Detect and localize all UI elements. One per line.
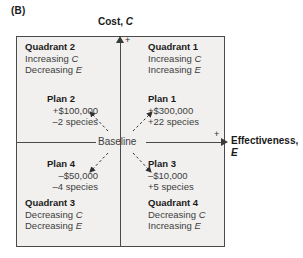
quadrant-2-title: Quadrant 2: [25, 41, 82, 53]
panel-label: (B): [11, 5, 25, 16]
quadrant-4-eff-var: E: [194, 220, 200, 231]
quadrant-1-cost-text: Increasing: [148, 53, 194, 64]
quadrant-3-eff-var: E: [76, 220, 82, 231]
quadrant-3-eff-text: Decreasing: [25, 220, 76, 231]
quadrant-2-block: Quadrant 2 Increasing C Decreasing E: [25, 41, 82, 76]
quadrant-4-eff-line: Increasing E: [148, 220, 206, 232]
plan-1-block: Plan 1 +$300,000 +22 species: [148, 93, 199, 128]
effectiveness-axis-line-right: [146, 142, 222, 143]
quadrant-1-cost-var: C: [194, 53, 201, 64]
quadrant-2-cost-line: Increasing C: [25, 53, 82, 65]
quadrant-4-cost-line: Decreasing C: [148, 209, 206, 221]
x-axis-variable: E: [231, 147, 298, 159]
quadrant-3-cost-var: C: [76, 209, 83, 220]
plan-2-species: –2 species: [28, 116, 98, 128]
quadrant-1-cost-line: Increasing C: [148, 53, 201, 65]
plan-4-species: –4 species: [28, 181, 98, 193]
plan-4-cost: –$50,000: [28, 170, 98, 182]
y-axis-variable: C: [126, 16, 133, 27]
y-axis-title-text: Cost,: [98, 16, 126, 27]
quadrant-4-cost-var: C: [199, 209, 206, 220]
x-axis-title: Effectiveness,E: [231, 135, 298, 159]
plan-3-cost: –$10,000: [148, 170, 194, 182]
quadrant-2-eff-var: E: [76, 64, 82, 75]
quadrant-3-block: Quadrant 3 Decreasing C Decreasing E: [25, 197, 83, 232]
quadrant-4-eff-text: Increasing: [148, 220, 194, 231]
quadrant-2-cost-var: C: [71, 53, 78, 64]
quadrant-2-eff-text: Decreasing: [25, 64, 76, 75]
quadrant-4-title: Quadrant 4: [148, 197, 206, 209]
baseline-label: Baseline: [98, 136, 136, 147]
plan-1-cost: +$300,000: [148, 105, 199, 117]
effectiveness-axis-arrowhead-icon: [221, 138, 228, 146]
plan-1-species: +22 species: [148, 116, 199, 128]
plan-3-block: Plan 3 –$10,000 +5 species: [148, 158, 194, 193]
plan-3-title: Plan 3: [148, 158, 194, 170]
cost-axis-plus-sign: +: [125, 36, 130, 45]
x-axis-title-text: Effectiveness,: [231, 135, 298, 146]
effectiveness-axis-line-left: [17, 142, 96, 143]
quadrant-3-cost-line: Decreasing C: [25, 209, 83, 221]
quadrant-3-title: Quadrant 3: [25, 197, 83, 209]
y-axis-title: Cost, C: [98, 16, 133, 27]
quadrant-1-block: Quadrant 1 Increasing C Increasing E: [148, 41, 201, 76]
plan-2-title: Plan 2: [28, 93, 98, 105]
plan-1-title: Plan 1: [148, 93, 199, 105]
quadrant-4-block: Quadrant 4 Decreasing C Increasing E: [148, 197, 206, 232]
quadrant-2-cost-text: Increasing: [25, 53, 71, 64]
cost-axis-arrowhead-icon: [116, 36, 124, 43]
quadrant-3-eff-line: Decreasing E: [25, 220, 83, 232]
plan-4-block: Plan 4 –$50,000 –4 species: [28, 158, 98, 193]
plan-3-species: +5 species: [148, 181, 194, 193]
plan-4-title: Plan 4: [28, 158, 98, 170]
quadrant-1-title: Quadrant 1: [148, 41, 201, 53]
effectiveness-axis-plus-sign: +: [214, 130, 219, 139]
quadrant-1-eff-text: Increasing: [148, 64, 194, 75]
plan-2-block: Plan 2 +$100,000 –2 species: [28, 93, 98, 128]
quadrant-2-eff-line: Decreasing E: [25, 64, 82, 76]
quadrant-1-eff-var: E: [194, 64, 200, 75]
quadrant-4-cost-text: Decreasing: [148, 209, 199, 220]
figure-panel-b: (B) Cost, C + + Effectiveness,E Baseline…: [0, 0, 303, 258]
quadrant-3-cost-text: Decreasing: [25, 209, 76, 220]
quadrant-1-eff-line: Increasing E: [148, 64, 201, 76]
plan-2-cost: +$100,000: [28, 105, 98, 117]
